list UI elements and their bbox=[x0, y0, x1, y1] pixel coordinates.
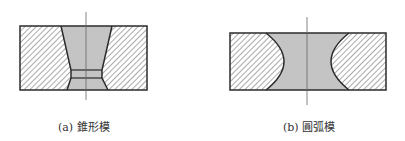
caption-arc-die: (b) 圓弧模 bbox=[283, 118, 335, 134]
tapered-die-figure bbox=[20, 12, 147, 100]
arc-die-figure bbox=[230, 17, 386, 105]
caption-tapered-die: (a) 錐形模 bbox=[58, 118, 110, 134]
